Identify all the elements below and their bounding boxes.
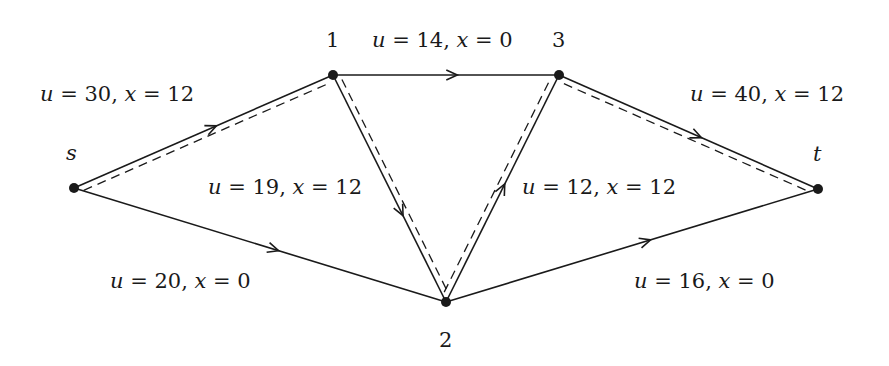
- edge-label-1-3: u = 14, x = 0: [372, 30, 513, 51]
- node-t: [813, 184, 823, 194]
- node-2: [441, 297, 451, 307]
- node-s: [69, 183, 79, 193]
- node-3: [554, 70, 564, 80]
- node-label-t: t: [813, 144, 821, 165]
- node-label-s: s: [66, 143, 77, 164]
- graph-canvas: [0, 0, 889, 366]
- node-1: [328, 70, 338, 80]
- edge-label-1-2: u = 19, x = 12: [208, 177, 362, 198]
- node-label-1: 1: [326, 30, 339, 51]
- edges-layer: [74, 75, 818, 302]
- edge-label-s-1: u = 30, x = 12: [40, 84, 194, 105]
- edge-label-2-3: u = 12, x = 12: [522, 177, 676, 198]
- node-label-3: 3: [552, 30, 565, 51]
- node-label-2: 2: [439, 330, 452, 351]
- edge-label-2-t: u = 16, x = 0: [634, 271, 775, 292]
- augmenting-path-layer: [84, 79, 809, 292]
- edge-label-3-t: u = 40, x = 12: [690, 84, 844, 105]
- flow-network-diagram: s 1 3 t 2 u = 30, x = 12 u = 14, x = 0 u…: [0, 0, 889, 366]
- edge-label-s-2: u = 20, x = 0: [110, 271, 251, 292]
- arrowheads-layer: [204, 70, 701, 252]
